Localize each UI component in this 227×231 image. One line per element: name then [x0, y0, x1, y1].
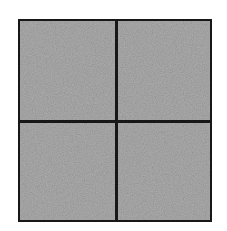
divider-horizontal-line	[20, 120, 210, 123]
quadrant-top-left	[20, 21, 115, 120]
quadrant-bottom-right	[118, 123, 209, 219]
quadrant-top-right	[118, 21, 209, 120]
figure-canvas	[0, 0, 227, 231]
outer-square-frame	[18, 19, 212, 222]
quadrant-bottom-left	[20, 123, 115, 219]
